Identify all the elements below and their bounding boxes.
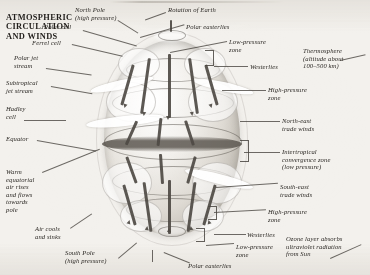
label-warm-equatorial-air: Warm equatorial air rises and flows towa… bbox=[6, 168, 34, 214]
leader-equator bbox=[37, 140, 96, 151]
wind-arrowhead-n2 bbox=[142, 112, 147, 117]
label-westerlies-north: Westerlies bbox=[250, 63, 278, 71]
globe-illustration bbox=[96, 24, 246, 252]
leader-westerlies-south bbox=[214, 234, 246, 235]
diagram-page: ATMOSPHERIC CIRCULATION AND WINDS bbox=[0, 0, 370, 275]
label-ferrel-cell: Ferrel cell bbox=[32, 39, 61, 47]
label-intertropical-convergence-zone: Intertropical convergence zone (low pres… bbox=[282, 148, 330, 171]
label-low-pressure-zone-south: Low-pressure zone bbox=[236, 243, 273, 258]
equator-shadow-band bbox=[102, 136, 242, 152]
polar-cell-lobe-nw bbox=[118, 48, 160, 80]
label-low-pressure-zone-north: Low-pressure zone bbox=[229, 38, 266, 53]
leader-high-pressure-zone-north bbox=[222, 90, 266, 91]
label-south-east-trade-winds: South-east trade winds bbox=[280, 183, 312, 198]
bracket-westerlies-south bbox=[196, 228, 205, 242]
wind-arrowhead-n4 bbox=[190, 112, 195, 117]
leader-westerlies-north bbox=[214, 66, 248, 67]
label-westerlies-south: Westerlies bbox=[247, 231, 275, 239]
label-south-pole: South Pole (high pressure) bbox=[65, 249, 106, 264]
bracket-itcz bbox=[240, 140, 249, 162]
label-air-cools-and-sinks: Air cools and sinks bbox=[35, 225, 61, 240]
leader-hadley-cell bbox=[24, 120, 66, 121]
label-rotation-of-earth: Rotation of Earth bbox=[168, 6, 216, 14]
label-polar-cell: Polar cell bbox=[44, 23, 71, 31]
page-rule-top bbox=[110, 1, 285, 3]
leader-subtropical-jet-stream bbox=[51, 86, 93, 94]
wind-arrowhead-s4 bbox=[189, 226, 194, 231]
rotation-axis-marker bbox=[170, 20, 172, 32]
leader-polar-easterlies-south bbox=[164, 252, 190, 263]
label-equator: Equator bbox=[6, 135, 28, 143]
label-north-pole: North Pole (high pressure) bbox=[75, 6, 116, 21]
leader-south-pole-tick bbox=[152, 250, 153, 262]
leader-rotation-of-earth bbox=[145, 12, 166, 20]
wind-arrowhead-n3 bbox=[166, 116, 170, 120]
label-high-pressure-zone-south: High-pressure zone bbox=[268, 208, 307, 223]
label-polar-jet-stream: Polar jet stream bbox=[14, 54, 38, 69]
label-north-east-trade-winds: North-east trade winds bbox=[282, 117, 314, 132]
label-hadley-cell: Hadley cell bbox=[6, 105, 26, 120]
label-subtropical-jet-stream: Subtropical jet stream bbox=[6, 79, 38, 94]
leader-warm-equatorial-air bbox=[42, 149, 100, 173]
wind-arrow-n3 bbox=[168, 54, 171, 118]
wind-arrowhead-s2 bbox=[145, 226, 150, 231]
leader-air-cools-and-sinks bbox=[70, 213, 92, 228]
leader-north-east-trade-winds bbox=[240, 121, 280, 122]
leader-intertropical-convergence-zone bbox=[244, 152, 280, 153]
bracket-low-pressure-north bbox=[205, 50, 214, 66]
label-polar-easterlies-north: Polar easterlies bbox=[186, 23, 230, 31]
wind-arrow-s3 bbox=[168, 180, 171, 234]
label-thermosphere: Thermosphere (altitude about 100–500 km) bbox=[303, 47, 344, 70]
south-pole-ring bbox=[158, 226, 186, 237]
leader-polar-jet-stream bbox=[46, 68, 92, 75]
wind-arrowhead-s3 bbox=[167, 228, 171, 232]
label-ozone-layer: Ozone layer absorbs ultraviolet radiatio… bbox=[286, 235, 342, 258]
label-high-pressure-zone-north: High-pressure zone bbox=[268, 86, 307, 101]
label-polar-easterlies-south: Polar easterlies bbox=[188, 262, 232, 270]
bracket-high-pressure-south bbox=[208, 206, 217, 220]
